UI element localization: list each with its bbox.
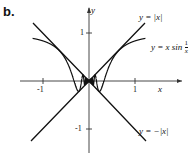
y-tick-label-1: 1 (80, 29, 84, 37)
frac-den: x (185, 48, 189, 55)
curve-neg-abs-x (31, 81, 146, 141)
x-tick-label-neg1: -1 (37, 86, 44, 94)
label-x-sin: y = x sin 1 x (151, 40, 188, 55)
label-neg-abs-x: y = −|x| (139, 127, 169, 136)
x-axis-label: x (158, 85, 162, 94)
label-abs-x: y = |x| (139, 13, 163, 22)
x-tick-label-1: 1 (133, 86, 137, 94)
y-tick-label-neg1: -1 (75, 125, 82, 133)
x-axis-arrow-icon (177, 79, 182, 83)
panel-label: b. (3, 4, 15, 19)
y-axis-label: y (91, 6, 95, 15)
label-x-sin-main: y = x sin (151, 42, 182, 52)
label-x-sin-frac: 1 x (185, 40, 189, 55)
